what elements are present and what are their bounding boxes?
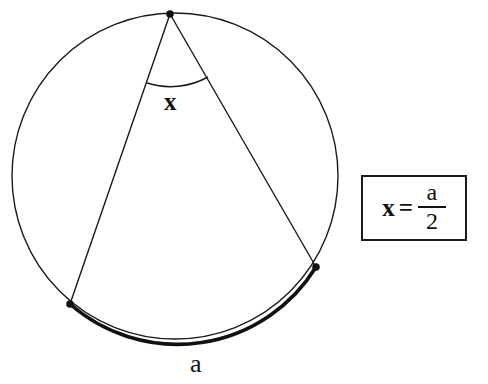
formula-equals-sign: =: [399, 195, 413, 220]
formula-fraction: a 2: [418, 180, 446, 234]
angle-label-x: x: [164, 88, 177, 116]
formula-numerator: a: [423, 180, 442, 205]
chord-left: [70, 14, 170, 304]
angle-marker-arc: [147, 77, 208, 87]
formula-expression: x = a 2: [382, 180, 446, 234]
chord-right: [170, 14, 316, 267]
apex-vertex-dot: [166, 10, 174, 18]
arc-label-a: a: [190, 349, 202, 379]
chord-endpoint-left-dot: [66, 300, 74, 308]
formula-box: x = a 2: [361, 175, 467, 241]
figure-root: x a x = a 2: [0, 0, 488, 384]
circle-outline: [12, 13, 338, 339]
bold-arc-a: [70, 267, 316, 344]
formula-variable-x: x: [382, 195, 395, 220]
formula-denominator: 2: [422, 209, 442, 234]
chord-endpoint-right-dot: [312, 263, 320, 271]
